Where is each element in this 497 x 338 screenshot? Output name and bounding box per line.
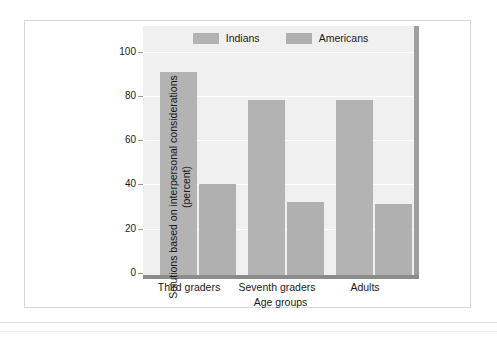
xtick-label-seventh-graders: Seventh graders [231,281,323,293]
legend-item-indians: Indians [193,32,260,44]
bar-americans-seventh-graders [287,202,324,277]
y-axis-title-wrapper: Solutions based on interpersonal conside… [88,22,116,282]
gridline-100 [143,52,418,53]
ytick-mark-80 [138,96,143,97]
bar-indians-seventh-graders [248,100,285,277]
y-axis-title: Solutions based on interpersonal conside… [167,62,193,312]
x-axis-title: Age groups [143,296,418,308]
xtick-label-adults: Adults [319,281,411,293]
ytick-mark-0 [138,273,143,274]
legend-swatch-americans [286,33,312,44]
ytick-mark-60 [138,140,143,141]
xtick-label-third-graders: Third graders [143,281,235,293]
legend-label-americans: Americans [319,32,369,44]
figure-container: Indians Americans 100 80 60 40 20 0 Solu… [0,0,497,338]
page-rule-upper [0,322,497,323]
legend-label-indians: Indians [226,32,260,44]
legend-item-americans: Americans [286,32,369,44]
legend: Indians Americans [143,28,418,48]
y-axis-title-line2: (percent) [180,62,193,312]
bar-americans-third-graders [199,184,236,277]
ytick-mark-20 [138,229,143,230]
ytick-mark-40 [138,184,143,185]
bar-indians-adults [336,100,373,277]
plot-right-shadow [414,26,419,277]
page-rule-lower [0,331,497,332]
ytick-mark-100 [138,52,143,53]
y-axis-title-line1: Solutions based on interpersonal conside… [167,62,180,312]
legend-swatch-indians [193,33,219,44]
bar-americans-adults [375,204,412,277]
